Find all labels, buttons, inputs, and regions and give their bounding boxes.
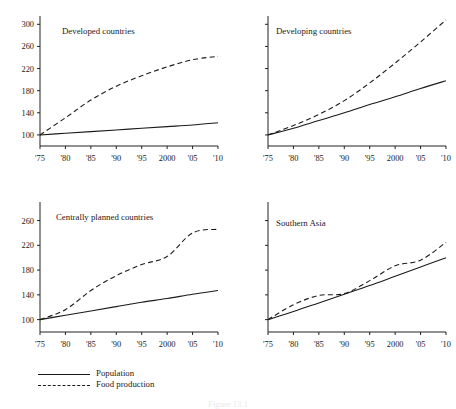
panel-centrally-planned-countries: 100140180220260'75'80'85'90'952000'05'10… (0, 186, 228, 372)
series-line-population (40, 291, 218, 320)
legend-label-food-production: Food production (96, 379, 154, 390)
x-axis-tick-label: '95 (137, 154, 147, 163)
series-line-food-production (40, 56, 218, 135)
y-axis-tick-label: 260 (21, 42, 34, 51)
x-axis-tick-label: '90 (339, 154, 349, 163)
x-axis-tick-label: '90 (111, 154, 121, 163)
figure-population-food-production: 100140180220260300'75'80'85'90'952000'05… (0, 0, 456, 409)
x-axis-tick-label: '85 (86, 340, 96, 349)
chart-svg-developing-countries: '75'80'85'90'952000'05'10Developing coun… (228, 0, 456, 186)
x-axis-tick-label: 2000 (387, 340, 404, 349)
y-axis-tick-label: 260 (21, 217, 34, 226)
figure-caption: Figure 13.1 (0, 399, 456, 409)
panel-title: Developing countries (276, 26, 352, 36)
series-line-population (268, 81, 446, 135)
x-axis-tick-label: '75 (263, 340, 273, 349)
y-axis-tick-label: 140 (21, 109, 34, 118)
x-axis-tick-label: 2000 (159, 340, 176, 349)
series-line-food-production (268, 20, 446, 135)
x-axis-tick-label: '85 (314, 340, 324, 349)
x-axis-tick-label: '75 (35, 154, 45, 163)
legend-key-population (38, 369, 96, 379)
x-axis-tick-label: '80 (288, 154, 298, 163)
panel-developed-countries: 100140180220260300'75'80'85'90'952000'05… (0, 0, 228, 186)
chart-legend: Population Food production (38, 368, 238, 390)
x-axis-tick-label: '05 (416, 154, 426, 163)
x-axis-tick-label: '90 (111, 340, 121, 349)
y-axis-tick-label: 220 (21, 65, 34, 74)
series-line-food-production (268, 242, 446, 319)
x-axis-tick-label: '95 (365, 154, 375, 163)
x-axis-tick-label: '75 (35, 340, 45, 349)
x-axis-tick-label: '95 (137, 340, 147, 349)
y-axis-tick-label: 220 (21, 241, 34, 250)
x-axis-tick-label: '85 (314, 154, 324, 163)
series-line-food-production (40, 229, 218, 319)
x-axis-tick-label: '80 (60, 154, 70, 163)
legend-item-food-production: Food production (38, 379, 238, 390)
panel-southern-asia: '75'80'85'90'952000'05'10Southern Asia (228, 186, 456, 372)
x-axis-tick-label: '85 (86, 154, 96, 163)
x-axis-tick-label: '80 (288, 340, 298, 349)
x-axis-tick-label: '10 (441, 154, 451, 163)
panel-title: Southern Asia (276, 218, 326, 228)
x-axis-tick-label: '75 (263, 154, 273, 163)
panel-developing-countries: '75'80'85'90'952000'05'10Developing coun… (228, 0, 456, 186)
y-axis-tick-label: 100 (21, 316, 34, 325)
y-axis-tick-label: 180 (21, 87, 34, 96)
y-axis-tick-label: 300 (21, 20, 34, 29)
x-axis-tick-label: '80 (60, 340, 70, 349)
y-axis-tick-label: 140 (21, 291, 34, 300)
y-axis-tick-label: 180 (21, 266, 34, 275)
x-axis-tick-label: '90 (339, 340, 349, 349)
chart-svg-southern-asia: '75'80'85'90'952000'05'10Southern Asia (228, 186, 456, 372)
x-axis-tick-label: '10 (441, 340, 451, 349)
panel-title: Centrally planned countries (56, 212, 154, 222)
x-axis-tick-label: 2000 (159, 154, 176, 163)
series-line-population (268, 258, 446, 320)
x-axis-tick-label: 2000 (387, 154, 404, 163)
x-axis-tick-label: '10 (213, 154, 223, 163)
chart-svg-centrally-planned-countries: 100140180220260'75'80'85'90'952000'05'10… (0, 186, 228, 372)
legend-item-population: Population (38, 368, 238, 379)
legend-key-food-production (38, 380, 96, 390)
chart-svg-developed-countries: 100140180220260300'75'80'85'90'952000'05… (0, 0, 228, 186)
series-line-population (40, 123, 218, 135)
x-axis-tick-label: '05 (416, 340, 426, 349)
x-axis-tick-label: '05 (188, 154, 198, 163)
panel-title: Developed countries (62, 26, 135, 36)
x-axis-tick-label: '05 (188, 340, 198, 349)
legend-label-population: Population (96, 368, 134, 379)
y-axis-tick-label: 100 (21, 131, 34, 140)
x-axis-tick-label: '95 (365, 340, 375, 349)
x-axis-tick-label: '10 (213, 340, 223, 349)
